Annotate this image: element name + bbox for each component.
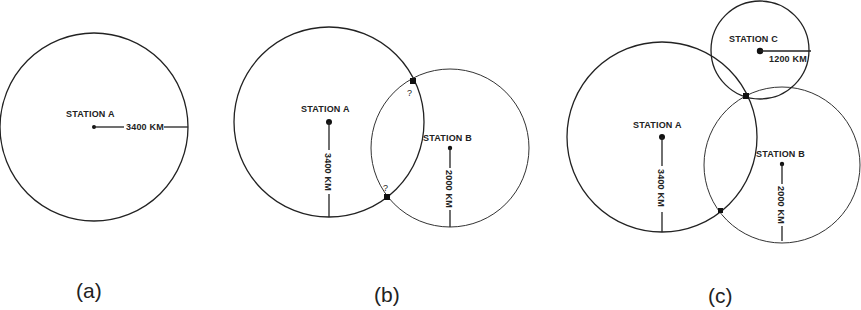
a-b-intersection-point [718, 208, 723, 213]
station-b-radius-label: 2000 KM [776, 186, 786, 224]
common-intersection-point [743, 93, 749, 99]
panel-a-label: (a) [76, 279, 102, 302]
station-a-radius-label: 3400 KM [126, 122, 164, 132]
station-a-radius-label: 3400 KM [656, 169, 666, 207]
station-b-radius-label: 2000 KM [444, 170, 454, 208]
station-a-label: STATION A [633, 120, 682, 130]
station-b-label: STATION B [756, 149, 805, 159]
station-b-label: STATION B [423, 133, 472, 143]
station-a-label: STATION A [301, 104, 350, 114]
panel-c-label: (c) [708, 284, 733, 307]
intersection-point-lower [384, 194, 390, 200]
panel-c: STATION A 3400 KM STATION B 2000 KM STAT… [567, 1, 860, 307]
intersection-question-upper: ? [407, 88, 412, 98]
panel-a: STATION A 3400 KM (a) [0, 33, 188, 302]
station-c-label: STATION C [729, 34, 778, 44]
intersection-question-lower: ? [383, 183, 388, 193]
trilateration-diagram: STATION A 3400 KM (a) STATION A 3400 KM … [0, 0, 861, 310]
station-c-radius-label: 1200 KM [769, 54, 807, 64]
station-a-radius-label: 3400 KM [323, 153, 333, 191]
panel-b-label: (b) [374, 283, 400, 306]
station-a-label: STATION A [66, 109, 115, 119]
panel-b: STATION A 3400 KM STATION B 2000 KM ? ? … [234, 27, 529, 306]
intersection-point-upper [410, 78, 416, 84]
